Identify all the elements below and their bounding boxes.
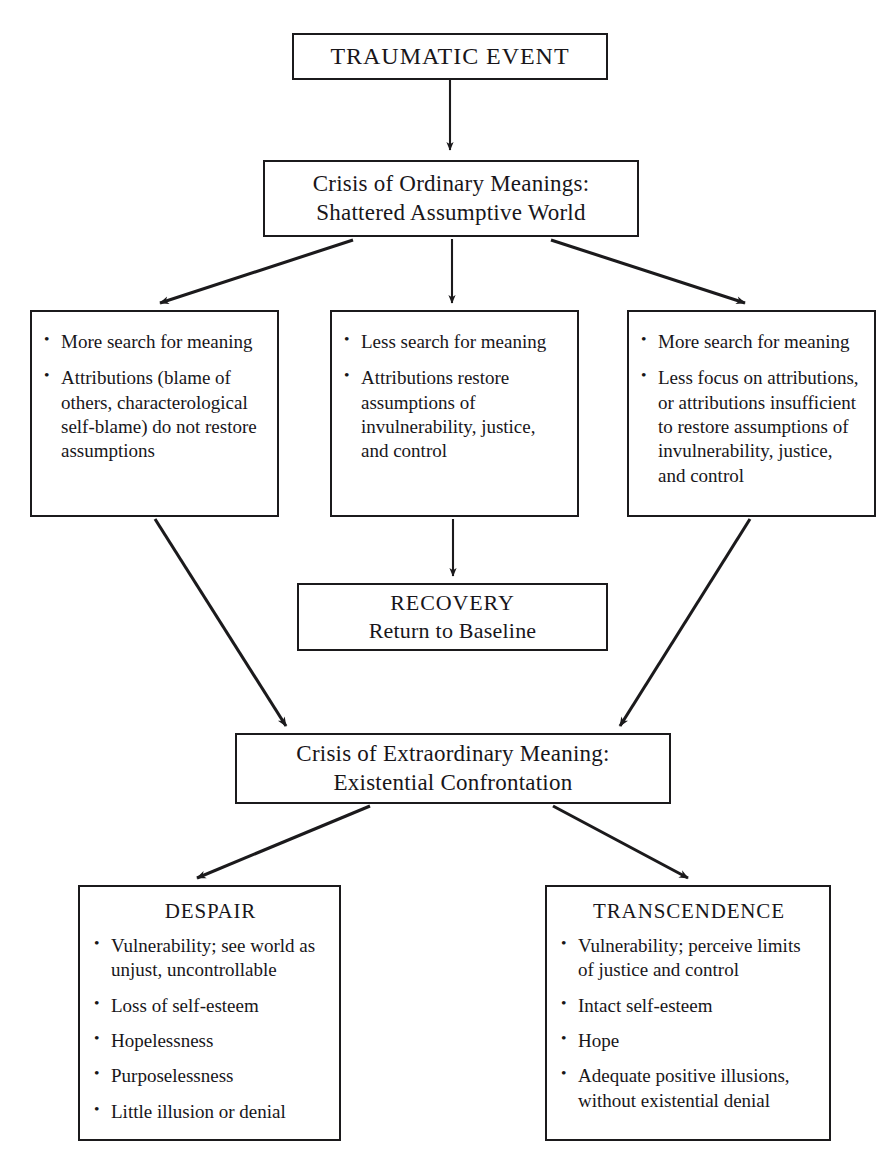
edge-right-to-extraordinary xyxy=(620,519,750,726)
node-despair-bullets: Vulnerability; see world as unjust, unco… xyxy=(92,934,329,1135)
node-branch-middle-bullets: Less search for meaning Attributions res… xyxy=(342,330,565,464)
list-item: Hopelessness xyxy=(92,1029,329,1053)
edge-extraordinary-to-despair xyxy=(197,806,370,878)
node-recovery-line2: Return to Baseline xyxy=(299,617,606,645)
node-transcendence-bullets: Vulnerability; perceive limits of justic… xyxy=(559,934,819,1124)
edge-crisis-to-left xyxy=(160,240,353,303)
node-crisis-ordinary: Crisis of Ordinary Meanings: Shattered A… xyxy=(263,160,639,237)
flowchart-page: TRAUMATIC EVENT Crisis of Ordinary Meani… xyxy=(0,0,894,1176)
node-branch-left: More search for meaning Attributions (bl… xyxy=(30,310,279,517)
node-despair-title: DESPAIR xyxy=(92,899,329,924)
edge-left-to-extraordinary xyxy=(155,519,286,726)
node-crisis-ordinary-line2: Shattered Assumptive World xyxy=(265,199,637,228)
list-item: Vulnerability; perceive limits of justic… xyxy=(559,934,819,983)
list-item: Attributions (blame of others, character… xyxy=(42,366,265,463)
node-recovery-line1: RECOVERY xyxy=(299,589,606,617)
edge-crisis-to-right xyxy=(551,240,745,303)
list-item: Vulnerability; see world as unjust, unco… xyxy=(92,934,329,983)
node-transcendence-title: TRANSCENDENCE xyxy=(559,899,819,924)
list-item: Hope xyxy=(559,1029,819,1053)
list-item: Less focus on attributions, or attributi… xyxy=(639,366,862,488)
node-branch-right-bullets: More search for meaning Less focus on at… xyxy=(639,330,862,488)
node-branch-right: More search for meaning Less focus on at… xyxy=(627,310,876,517)
list-item: More search for meaning xyxy=(639,330,862,354)
node-crisis-extraordinary-line1: Crisis of Extraordinary Meaning: xyxy=(237,740,669,769)
node-recovery: RECOVERY Return to Baseline xyxy=(297,583,608,651)
edge-extraordinary-to-transcendence xyxy=(553,806,688,878)
node-traumatic-event-label: TRAUMATIC EVENT xyxy=(294,41,606,71)
list-item: Adequate positive illusions, without exi… xyxy=(559,1064,819,1113)
list-item: More search for meaning xyxy=(42,330,265,354)
list-item: Attributions restore assumptions of invu… xyxy=(342,366,565,463)
node-crisis-extraordinary-line2: Existential Confrontation xyxy=(237,769,669,798)
node-crisis-ordinary-line1: Crisis of Ordinary Meanings: xyxy=(265,170,637,199)
node-crisis-extraordinary: Crisis of Extraordinary Meaning: Existen… xyxy=(235,733,671,804)
list-item: Little illusion or denial xyxy=(92,1100,329,1124)
node-branch-left-bullets: More search for meaning Attributions (bl… xyxy=(42,330,265,464)
list-item: Intact self-esteem xyxy=(559,994,819,1018)
list-item: Loss of self-esteem xyxy=(92,994,329,1018)
list-item: Purposelessness xyxy=(92,1064,329,1088)
list-item: Less search for meaning xyxy=(342,330,565,354)
node-branch-middle: Less search for meaning Attributions res… xyxy=(330,310,579,517)
node-despair: DESPAIR Vulnerability; see world as unju… xyxy=(78,885,341,1141)
node-transcendence: TRANSCENDENCE Vulnerability; perceive li… xyxy=(545,885,831,1141)
node-traumatic-event: TRAUMATIC EVENT xyxy=(292,33,608,80)
